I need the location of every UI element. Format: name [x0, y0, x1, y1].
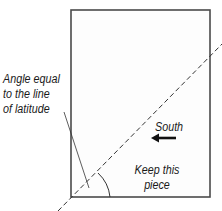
angle-label-line1: Angle equal	[3, 72, 60, 87]
keep-label-line1: Keep this	[131, 163, 183, 178]
angle-label: Angle equal to the line of latitude	[3, 72, 60, 117]
keep-label-line2: piece	[131, 178, 183, 193]
angle-label-line2: to the line	[3, 87, 60, 102]
keep-piece-label: Keep this piece	[131, 163, 183, 193]
angle-label-line3: of latitude	[3, 102, 60, 117]
latitude-cut-diagram: Angle equal to the line of latitude Sout…	[0, 0, 222, 211]
south-label: South	[155, 120, 183, 135]
